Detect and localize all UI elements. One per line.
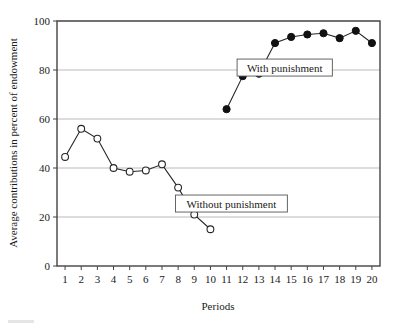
y-tick-label-100: 100 [34,15,51,27]
x-tick-label-4: 4 [111,273,117,285]
x-tick-label-17: 17 [318,273,330,285]
x-tick-label-18: 18 [334,273,346,285]
data-point-14 [271,39,278,46]
x-tick-label-9: 9 [192,273,198,285]
y-tick-label-60: 60 [39,113,51,125]
data-point-4 [110,165,117,172]
x-tick-label-20: 20 [366,273,378,285]
x-tick-label-3: 3 [95,273,101,285]
data-point-15 [288,33,295,40]
x-tick-label-12: 12 [237,273,248,285]
data-point-1 [62,154,69,161]
x-tick-label-7: 7 [159,273,165,285]
x-tick-label-14: 14 [270,273,282,285]
data-point-19 [352,27,359,34]
data-point-6 [142,167,149,174]
x-tick-label-8: 8 [175,273,181,285]
data-point-2 [78,125,85,132]
x-tick-label-10: 10 [205,273,217,285]
y-axis-title: Average contributions in percent of endo… [7,38,19,248]
data-point-16 [304,31,311,38]
data-point-17 [320,30,327,37]
x-tick-label-6: 6 [143,273,149,285]
x-axis-title: Periods [202,300,235,312]
chart-figure: 020406080100 123456789101112131415161718… [0,0,415,330]
y-tick-label-0: 0 [45,260,51,272]
x-tick-label-11: 11 [221,273,232,285]
annotation-label-0: With punishment [247,62,323,74]
y-tick-label-40: 40 [39,162,51,174]
x-tick-label-16: 16 [302,273,314,285]
x-tick-label-1: 1 [62,273,68,285]
x-tick-label-5: 5 [127,273,133,285]
x-tick-label-2: 2 [78,273,84,285]
y-tick-label-80: 80 [39,64,51,76]
annotation-with-punishment: With punishment [237,59,332,76]
data-point-5 [126,168,133,175]
annotation-label-1: Without punishment [187,198,277,210]
x-tick-label-13: 13 [253,273,265,285]
data-point-18 [336,35,343,42]
data-point-7 [159,161,166,168]
chart-svg: 020406080100 123456789101112131415161718… [0,0,415,330]
y-tick-label-20: 20 [39,211,51,223]
data-point-3 [94,135,101,142]
x-tick-label-19: 19 [350,273,362,285]
data-point-8 [175,184,182,191]
data-point-10 [207,226,214,233]
data-point-11 [223,106,230,113]
annotation-without-punishment: Without punishment [175,195,287,212]
x-tick-label-15: 15 [286,273,298,285]
data-point-20 [368,39,375,46]
scan-artifact [8,320,34,323]
